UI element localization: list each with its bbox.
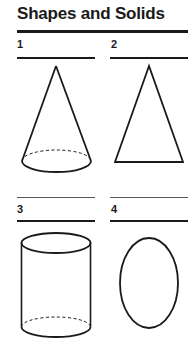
- oval-icon: [120, 238, 178, 328]
- triangle-icon: [115, 66, 183, 162]
- cone-icon: [22, 66, 91, 172]
- cylinder-icon: [22, 233, 91, 337]
- shapes-drawing: [0, 0, 196, 355]
